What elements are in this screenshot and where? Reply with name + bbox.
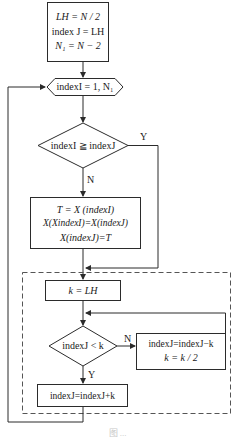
swap-line-1: T = X (indexI) xyxy=(30,204,141,216)
init-line-3: N₁ = N − 2 xyxy=(47,40,109,52)
swap-line-3: X(indexJ)=T xyxy=(30,232,141,244)
set-k-label: k = LH xyxy=(45,285,121,297)
loop-label: indexI = 1, N₁ xyxy=(47,81,123,93)
update-line-1: indexJ=indexJ−k xyxy=(136,338,226,350)
swap-line-2: X(XindexI)=X(indexJ) xyxy=(30,217,141,229)
check-k-label: indexJ < k xyxy=(49,340,117,352)
check-yes-label: Y xyxy=(88,370,95,380)
update-line-2: k = k / 2 xyxy=(136,352,226,364)
check-no-label: N xyxy=(124,334,131,344)
compare-no-label: N xyxy=(87,175,94,185)
final-label: indexJ=indexJ+k xyxy=(37,390,128,402)
compare-label: indexI ≧ indexJ xyxy=(38,140,128,152)
init-line-2: index J = LH xyxy=(47,26,109,38)
figure-caption: 图 ... xyxy=(0,426,235,439)
compare-yes-label: Y xyxy=(140,132,147,142)
init-line-1: LH = N / 2 xyxy=(47,11,109,23)
